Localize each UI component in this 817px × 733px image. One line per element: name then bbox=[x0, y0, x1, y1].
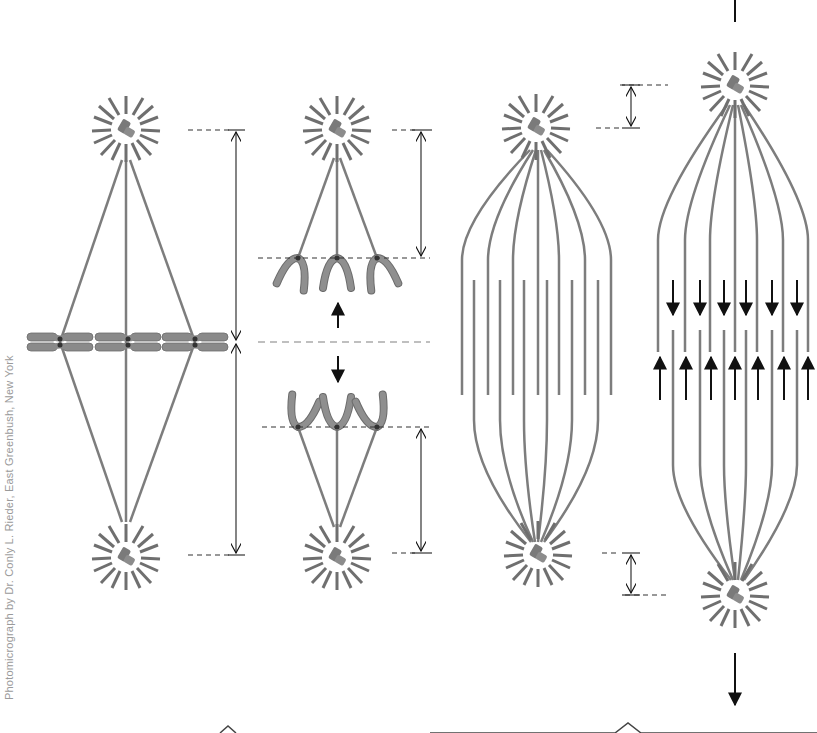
centrosome-aster-icon bbox=[303, 96, 371, 162]
centrosome-aster-icon bbox=[92, 524, 160, 590]
panel-anaphase-b-start bbox=[462, 94, 611, 587]
bottom-brackets bbox=[220, 723, 817, 733]
centrosome-aster-icon bbox=[303, 524, 371, 590]
centrosome-aster-icon bbox=[701, 562, 769, 628]
centrosome-aster-icon bbox=[92, 96, 160, 162]
centrosome-aster-icon bbox=[701, 52, 769, 118]
centrosome-aster-icon bbox=[502, 94, 570, 160]
mitosis-spindle-diagram bbox=[0, 0, 817, 733]
photo-credit: Photomicrograph by Dr. Conly L. Rieder, … bbox=[3, 355, 15, 700]
panel-anaphase-b-after bbox=[658, 0, 808, 705]
chromosome-icon bbox=[95, 333, 161, 351]
centrosome-aster-icon bbox=[504, 521, 572, 587]
panel-anaphase-a bbox=[258, 96, 432, 590]
panel-metaphase bbox=[27, 96, 245, 590]
